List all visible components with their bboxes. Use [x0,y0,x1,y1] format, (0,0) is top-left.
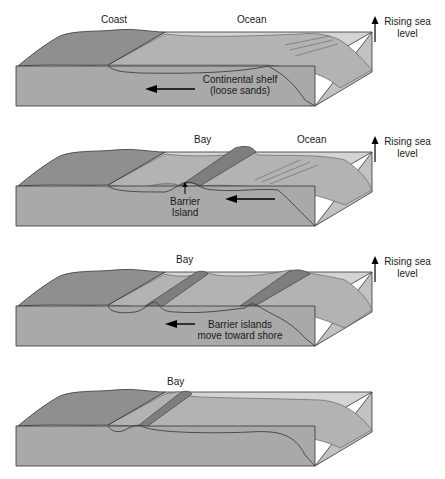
label-bay: Bay [167,376,184,387]
label-continental-shelf: Continental shelf (loose sands) [195,74,285,96]
label-ocean: Ocean [237,14,266,25]
panel-2-barrier-island: Bay Ocean Barrier Island Rising sea leve… [0,120,445,240]
arrow-up-icon [370,256,380,282]
label-ocean: Ocean [297,134,326,145]
panel-4-final: Bay [0,360,445,479]
arrow-up-icon [370,16,380,42]
rising-sea-level-note: Rising sea level [370,256,445,280]
label-bay: Bay [194,134,211,145]
label-coast: Coast [101,14,127,25]
label-barrier-island: Barrier Island [160,196,210,218]
panel-1-continental-shelf: Coast Ocean Continental shelf (loose san… [0,0,445,120]
rising-sea-level-note: Rising sea level [370,16,445,40]
label-bay: Bay [176,254,193,265]
arrow-up-icon [370,136,380,162]
block-diagram-4 [0,360,445,479]
panel-3-islands-migrate: Bay Barrier islands move toward shore Ri… [0,240,445,360]
rising-sea-level-note: Rising sea level [370,136,445,160]
label-islands-move: Barrier islands move toward shore [195,319,285,341]
